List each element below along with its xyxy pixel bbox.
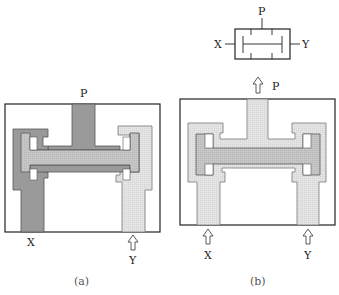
gap-a-2 <box>30 169 37 180</box>
label-y-a: Y <box>128 254 137 267</box>
panel-b: P X Y P X Y (b) <box>180 5 335 288</box>
gap-b-1 <box>205 134 213 148</box>
pneumatic-valve-diagram: P X Y (a) P X Y P <box>0 0 339 295</box>
arrow-up-icon <box>203 229 213 244</box>
arrow-up-icon <box>253 77 263 93</box>
label-x-a: X <box>27 236 35 249</box>
symbol-label-y: Y <box>301 38 310 51</box>
gap-a-1 <box>30 137 37 150</box>
caption-a: (a) <box>74 275 89 288</box>
label-y-b: Y <box>303 249 312 262</box>
symbol-label-x: X <box>214 38 222 51</box>
symbol-label-p: P <box>258 5 266 18</box>
gap-b-2 <box>205 164 213 175</box>
gap-b-4 <box>303 164 311 175</box>
caption-b: (b) <box>250 275 266 288</box>
arrow-up-icon <box>303 229 313 244</box>
valve-symbol <box>225 18 300 59</box>
label-x-b: X <box>204 249 212 262</box>
lower-band-a <box>30 165 130 172</box>
gap-b-3 <box>303 134 311 148</box>
label-p-a: P <box>80 87 88 100</box>
gap-a-4 <box>123 169 130 180</box>
label-p-b: P <box>272 80 280 93</box>
panel-a: P X Y (a) <box>5 87 160 288</box>
arrow-up-icon <box>128 235 138 250</box>
gap-a-3 <box>123 137 130 150</box>
